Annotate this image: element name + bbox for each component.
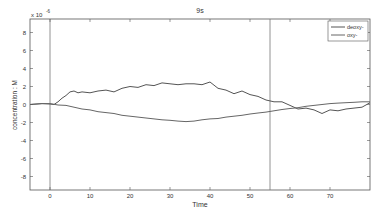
x-tick-label: 20 [127, 193, 134, 199]
x-axis-label: Time [192, 201, 207, 208]
x-tick-label: 60 [287, 193, 294, 199]
y-tick-label: -2 [21, 120, 27, 126]
x-tick-label: 50 [247, 193, 254, 199]
y-tick-label: -8 [21, 174, 27, 180]
x-tick-label: 40 [207, 193, 214, 199]
y-axis-label: concentration : M [11, 80, 18, 130]
x-tick-label: 70 [327, 193, 334, 199]
legend-label: deoxy- [347, 24, 364, 30]
y-exponent-base: x 10 [31, 12, 43, 18]
x-tick-label: 30 [167, 193, 174, 199]
legend: deoxy-oxy- [328, 21, 368, 41]
y-tick-label: -4 [21, 138, 27, 144]
y-tick-label: -6 [21, 156, 27, 162]
line-chart: 010203040506070 86420-2-4-6-8 9s Time co… [0, 0, 384, 212]
y-exponent-power: -6 [46, 9, 50, 14]
legend-label: oxy- [347, 32, 358, 38]
chart-title: 9s [196, 7, 204, 14]
x-tick-label: 10 [87, 193, 94, 199]
